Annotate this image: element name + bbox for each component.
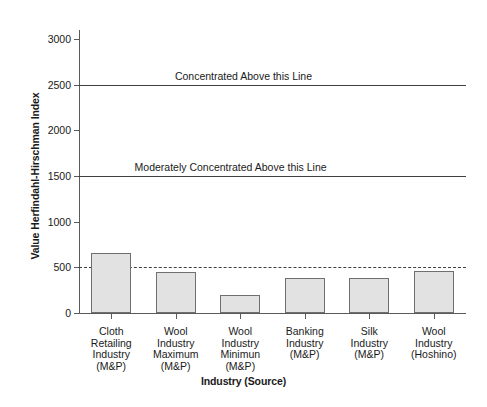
y-tick-label: 2500 <box>48 79 71 91</box>
x-axis-title: Industry (Source) <box>0 375 487 387</box>
bar <box>349 278 389 313</box>
x-tick-label-line: Wool <box>220 326 260 338</box>
x-tick-label-line: Wool <box>411 326 457 338</box>
x-tick-label-line: (Hoshino) <box>411 349 457 361</box>
moderately-concentrated-threshold-line <box>79 176 466 177</box>
y-tick-label: 3000 <box>48 33 71 45</box>
x-tick-label-line: Banking <box>286 326 324 338</box>
x-tick-mark <box>176 314 177 319</box>
five-hundred-threshold-line <box>79 267 466 268</box>
x-tick-mark <box>369 314 370 319</box>
moderately-concentrated-threshold-label: Moderately Concentrated Above this Line <box>135 161 327 176</box>
x-tick-label-line: Silk <box>351 326 388 338</box>
x-tick-mark <box>111 314 112 319</box>
x-tick-label-line: (M&P) <box>91 361 132 373</box>
x-tick-label-line: (M&P) <box>220 361 260 373</box>
x-tick-label: SilkIndustry(M&P) <box>351 326 388 361</box>
concentrated-threshold-line <box>79 85 466 86</box>
y-tick-label: 500 <box>53 261 71 273</box>
y-axis-title: Value Herfindahl-Hirschman Index <box>29 46 41 306</box>
x-tick-label-line: (M&P) <box>153 361 199 373</box>
bar <box>91 253 131 313</box>
x-tick-mark <box>240 314 241 319</box>
x-axis-line <box>79 313 466 314</box>
y-axis-line <box>79 30 80 314</box>
x-tick-label-line: Cloth <box>91 326 132 338</box>
y-tick-mark <box>74 130 79 131</box>
plot-area: 050010001500200025003000 Concentrated Ab… <box>79 30 466 314</box>
y-tick-label: 2000 <box>48 124 71 136</box>
x-tick-label-line: (M&P) <box>286 349 324 361</box>
x-tick-label: ClothRetailingIndustry(M&P) <box>91 326 132 372</box>
bar <box>414 271 454 313</box>
x-tick-label: WoolIndustryMinimun(M&P) <box>220 326 260 372</box>
y-tick-mark <box>74 222 79 223</box>
bar <box>220 295 260 313</box>
bar <box>156 272 196 313</box>
x-tick-label-line: Wool <box>153 326 199 338</box>
y-tick-mark <box>74 313 79 314</box>
bar <box>285 278 325 313</box>
x-tick-mark <box>305 314 306 319</box>
y-tick-label: 1500 <box>48 170 71 182</box>
bar-chart: Value Herfindahl-Hirschman Index Industr… <box>0 0 487 407</box>
y-tick-mark <box>74 39 79 40</box>
x-tick-label-line: (M&P) <box>351 349 388 361</box>
x-tick-label: BankingIndustry(M&P) <box>286 326 324 361</box>
y-tick-label: 0 <box>65 307 71 319</box>
concentrated-threshold-label: Concentrated Above this Line <box>175 70 312 85</box>
y-tick-label: 1000 <box>48 216 71 228</box>
x-tick-mark <box>434 314 435 319</box>
x-tick-label: WoolIndustry(Hoshino) <box>411 326 457 361</box>
x-tick-label: WoolIndustryMaximum(M&P) <box>153 326 199 372</box>
